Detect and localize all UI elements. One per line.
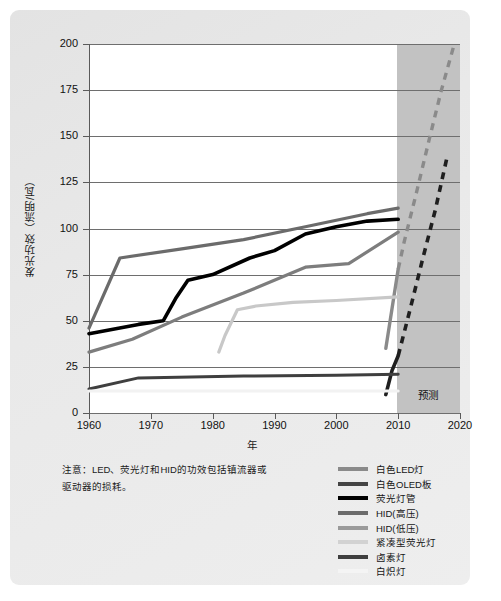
legend-label-2: 荧光灯管 xyxy=(376,491,416,505)
legend-item-5[interactable]: 紧凑型荧光灯 xyxy=(338,535,468,550)
chart-legend: 白色LED灯白色OLED板荧光灯管HID(高压)HID(低压)紧凑型荧光灯卤素灯… xyxy=(338,462,468,579)
legend-label-1: 白色OLED板 xyxy=(376,477,432,491)
luminous-efficacy-chart: 发光功效（流明/瓦） 年 0255075100125150175200 1960… xyxy=(0,0,501,601)
legend-swatch-icon-6 xyxy=(338,555,368,559)
series-line-6 xyxy=(89,374,398,389)
legend-swatch-icon-0 xyxy=(338,467,368,471)
series-line-0-forecast xyxy=(398,46,454,269)
series-line-3 xyxy=(89,208,398,328)
legend-item-6[interactable]: 卤素灯 xyxy=(338,550,468,565)
legend-item-3[interactable]: HID(高压) xyxy=(338,506,468,521)
series-line-5 xyxy=(219,297,398,352)
legend-item-4[interactable]: HID(低压) xyxy=(338,520,468,535)
legend-swatch-icon-1 xyxy=(338,482,368,486)
legend-label-4: HID(低压) xyxy=(376,521,419,535)
legend-label-7: 白炽灯 xyxy=(376,564,406,578)
series-line-2 xyxy=(89,219,398,333)
series-line-0 xyxy=(386,269,398,348)
series-line-1-forecast xyxy=(398,155,447,356)
chart-note: 注意：LED、荧光灯和HID的功效包括镇流器或驱动器的损耗。 xyxy=(62,462,267,495)
legend-label-0: 白色LED灯 xyxy=(376,462,424,476)
forecast-label: 预测 xyxy=(402,387,454,402)
legend-label-6: 卤素灯 xyxy=(376,550,406,564)
legend-swatch-icon-4 xyxy=(338,526,368,530)
legend-item-7[interactable]: 白炽灯 xyxy=(338,564,468,579)
legend-swatch-icon-2 xyxy=(338,496,368,500)
legend-label-5: 紧凑型荧光灯 xyxy=(376,535,436,549)
legend-label-3: HID(高压) xyxy=(376,506,419,520)
legend-swatch-icon-5 xyxy=(338,540,368,544)
legend-item-0[interactable]: 白色LED灯 xyxy=(338,462,468,477)
legend-item-1[interactable]: 白色OLED板 xyxy=(338,477,468,492)
legend-swatch-icon-3 xyxy=(338,511,368,515)
series-line-4 xyxy=(89,232,398,352)
legend-item-2[interactable]: 荧光灯管 xyxy=(338,491,468,506)
legend-swatch-icon-7 xyxy=(338,569,368,573)
